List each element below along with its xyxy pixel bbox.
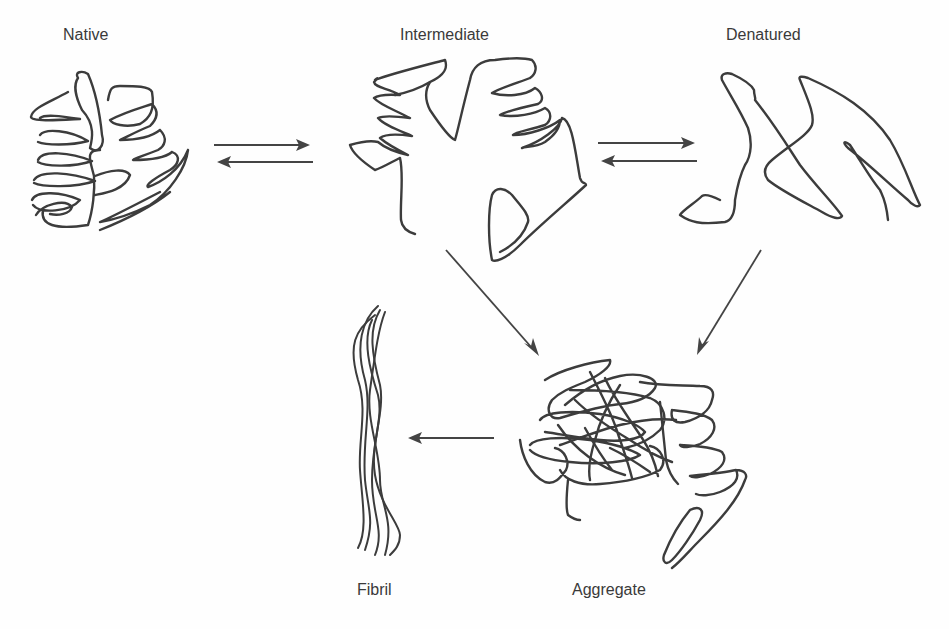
arrow-intermediate-to-aggregate — [446, 250, 539, 356]
arrow-aggregate-to-fibril — [408, 432, 494, 444]
fibril-icon — [353, 306, 400, 555]
aggregate-icon — [520, 360, 746, 568]
intermediate-protein-icon — [350, 59, 586, 261]
arrow-denatured-to-intermediate — [601, 155, 697, 167]
denatured-protein-icon — [680, 73, 920, 223]
arrow-native-to-intermediate — [214, 139, 310, 151]
native-protein-icon — [31, 72, 188, 230]
arrow-intermediate-to-denatured — [598, 137, 695, 149]
protein-folding-diagram: Native Intermediate Denatured Aggregate … — [0, 0, 949, 629]
arrow-intermediate-to-native — [217, 156, 313, 168]
diagram-graphics — [0, 0, 949, 629]
arrow-denatured-to-aggregate — [697, 250, 761, 355]
